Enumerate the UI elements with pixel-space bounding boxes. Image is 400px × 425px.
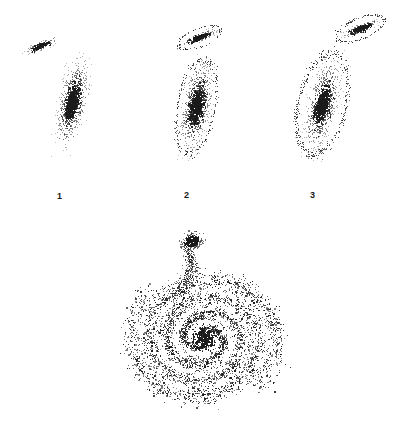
panel-label-3: 3	[310, 191, 315, 200]
panel-label-1: 1	[57, 192, 62, 201]
galaxy-simulation-figure	[0, 0, 400, 425]
panel-label-2: 2	[184, 191, 189, 200]
